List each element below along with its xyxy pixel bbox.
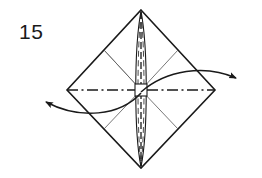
center-square-marker [135, 84, 147, 96]
origami-diagram: 15 [0, 0, 262, 178]
step-number-label: 15 [19, 21, 43, 42]
